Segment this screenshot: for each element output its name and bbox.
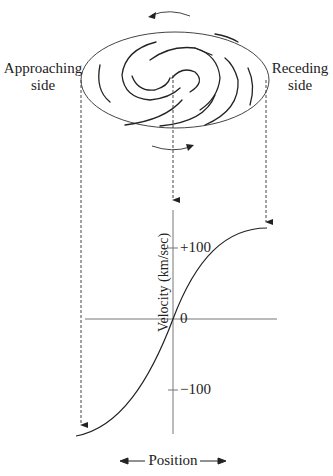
tick-label-plus-100: +100	[180, 239, 211, 256]
receding-side-label: Receding side	[270, 60, 330, 94]
galaxy-disk	[81, 32, 269, 128]
tick-label-minus-100: −100	[180, 381, 211, 398]
receding-label-line1: Receding	[270, 60, 330, 77]
y-axis-label: Velocity (km/sec)	[155, 233, 172, 333]
approaching-label-line1: Approaching	[2, 60, 84, 77]
galaxy-rotation-diagram: Approaching side Receding side +100 0 −1…	[0, 0, 333, 476]
rotation-arrow-top-icon	[148, 12, 190, 19]
rotation-curve	[76, 228, 267, 436]
receding-label-line2: side	[270, 77, 330, 94]
tick-label-zero: 0	[180, 310, 188, 327]
approaching-side-label: Approaching side	[2, 60, 84, 94]
approaching-label-line2: side	[2, 77, 84, 94]
x-axis-label: Position	[146, 452, 200, 469]
